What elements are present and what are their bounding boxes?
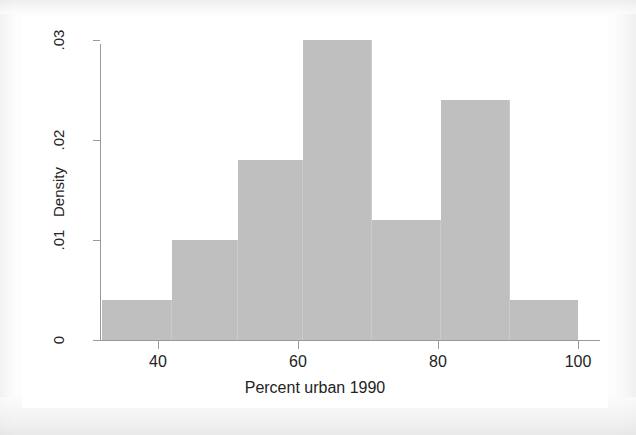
scan-edge-left: [0, 0, 16, 435]
plot-area: [102, 40, 578, 340]
y-tick-mark: [93, 140, 100, 141]
y-axis-line: [100, 44, 101, 341]
scan-band-top: [0, 0, 636, 14]
y-axis-title: Density: [50, 167, 67, 217]
histogram-bar: [303, 40, 372, 340]
y-tick-label-anchor: .03: [22, 40, 90, 41]
histogram-bar: [510, 300, 578, 340]
scanned-page: 0.01.02.03 406080100 Density Percent urb…: [0, 0, 636, 435]
histogram-bar: [441, 100, 510, 340]
y-tick-mark: [93, 240, 100, 241]
y-tick-label-anchor: 0: [22, 340, 90, 341]
x-tick-mark: [438, 341, 439, 349]
histogram-bar: [172, 240, 238, 340]
x-tick-label: 100: [565, 353, 592, 371]
y-tick-label-anchor: .02: [22, 140, 90, 141]
histogram-figure: 0.01.02.03 406080100 Density Percent urb…: [22, 16, 608, 408]
x-axis-line: [100, 340, 600, 341]
x-tick-mark: [578, 341, 579, 349]
histogram-bar: [372, 220, 441, 340]
histogram-bar: [238, 160, 303, 340]
x-tick-label: 40: [149, 353, 167, 371]
x-tick-mark: [158, 341, 159, 349]
x-tick-label: 80: [429, 353, 447, 371]
histogram-bar: [102, 300, 172, 340]
x-axis-title: Percent urban 1990: [22, 379, 608, 397]
y-tick-mark: [93, 40, 100, 41]
scan-edge-right: [614, 0, 636, 435]
x-tick-mark: [298, 341, 299, 349]
y-axis-title-anchor: Density: [52, 16, 53, 408]
y-tick-label-anchor: .01: [22, 240, 90, 241]
x-tick-label: 60: [289, 353, 307, 371]
y-tick-mark: [93, 340, 100, 341]
